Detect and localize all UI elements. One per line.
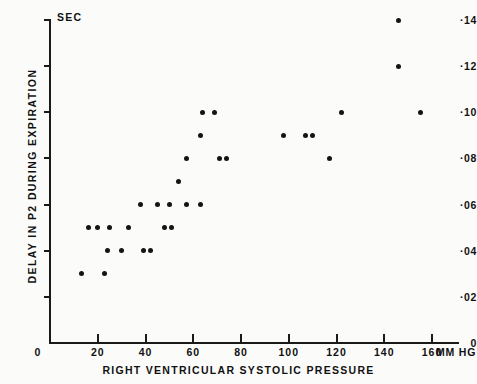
x-axis-tick: [431, 334, 433, 343]
data-point: [198, 202, 203, 207]
x-axis-title: RIGHT VENTRICULAR SYSTOLIC PRESSURE: [0, 364, 477, 376]
data-point: [169, 225, 174, 230]
page-caption-bleed: [0, 378, 477, 384]
y-axis-tick: [44, 296, 51, 298]
data-point: [162, 225, 167, 230]
y-axis-tick-label: ·06: [435, 199, 477, 211]
data-point: [212, 110, 217, 115]
x-axis-tick: [145, 334, 147, 343]
x-axis-tick: [383, 334, 385, 343]
data-point: [339, 110, 344, 115]
y-axis-tick-label: ·04: [435, 245, 477, 257]
data-point: [155, 202, 160, 207]
x-axis-tick-label: 40: [139, 346, 153, 358]
y-axis-unit-label: SEC: [57, 11, 82, 23]
data-point: [141, 248, 146, 253]
x-axis-tick-label: 60: [186, 346, 200, 358]
x-axis-tick-label: 0: [35, 346, 42, 358]
y-axis-tick-label: ·08: [435, 152, 477, 164]
data-point: [418, 110, 423, 115]
data-point: [327, 156, 332, 161]
data-point: [184, 202, 189, 207]
x-axis-tick-label: 80: [234, 346, 248, 358]
y-axis-tick: [44, 204, 51, 206]
x-axis-tick: [288, 334, 290, 343]
y-axis-tick-label: ·10: [435, 106, 477, 118]
data-point: [138, 202, 143, 207]
x-axis-tick: [240, 334, 242, 343]
y-axis-title: DELAY IN P2 DURING EXPIRATION: [26, 56, 38, 296]
y-axis-tick-label: ·02: [435, 291, 477, 303]
y-axis-tick: [44, 250, 51, 252]
data-point: [281, 133, 286, 138]
x-axis-tick: [97, 334, 99, 343]
data-point: [119, 248, 124, 253]
data-point: [176, 179, 181, 184]
data-point: [217, 156, 222, 161]
data-point: [102, 271, 107, 276]
y-axis-tick-label: ·14: [435, 14, 477, 26]
y-axis-tick: [44, 157, 51, 159]
x-axis-tick: [192, 334, 194, 343]
data-point: [303, 133, 308, 138]
x-axis-tick: [336, 334, 338, 343]
data-point: [86, 225, 91, 230]
data-point: [105, 248, 110, 253]
data-point: [200, 110, 205, 115]
y-axis-tick: [44, 111, 51, 113]
data-point: [148, 248, 153, 253]
x-axis-tick-label: 100: [278, 346, 299, 358]
data-point: [107, 225, 112, 230]
plot-area: SEC MM HG DELAY IN P2 DURING EXPIRATION …: [0, 0, 477, 384]
data-point: [184, 156, 189, 161]
y-axis-tick: [44, 65, 51, 67]
data-point: [396, 18, 401, 23]
data-point: [79, 271, 84, 276]
data-point: [95, 225, 100, 230]
data-point: [224, 156, 229, 161]
data-point: [126, 225, 131, 230]
data-point: [396, 64, 401, 69]
y-axis-tick: [44, 19, 51, 21]
data-point: [310, 133, 315, 138]
x-axis-tick-label: 140: [374, 346, 395, 358]
x-axis-tick-label: 20: [91, 346, 105, 358]
scatter-plot-figure: SEC MM HG DELAY IN P2 DURING EXPIRATION …: [0, 0, 477, 384]
y-axis-tick-label: ·12: [435, 60, 477, 72]
x-axis-tick-label: 120: [326, 346, 347, 358]
data-point: [167, 202, 172, 207]
data-point: [198, 133, 203, 138]
x-axis-line: [49, 342, 459, 344]
x-axis-tick-label: 160: [422, 346, 443, 358]
